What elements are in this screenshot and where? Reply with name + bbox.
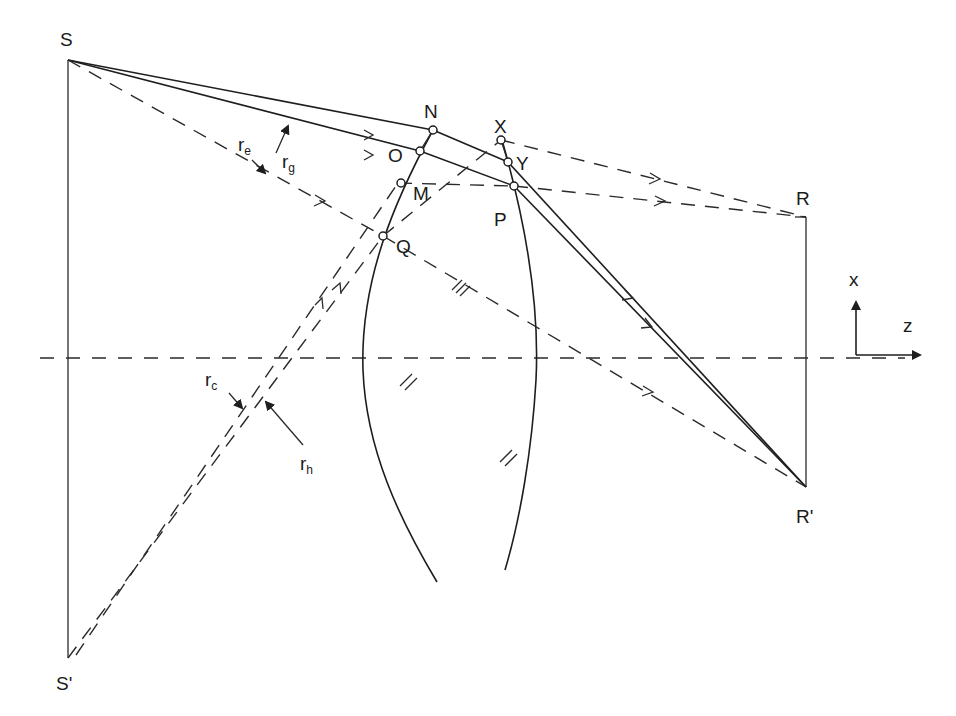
point-M-marker (397, 179, 405, 187)
re-pointer (252, 160, 265, 173)
point-Y-marker (504, 158, 512, 166)
direction-chevron-icon (315, 298, 323, 309)
label-rg: rg (282, 151, 295, 175)
label-X: X (494, 116, 507, 137)
label-M: M (413, 183, 429, 204)
label-rc: rc (205, 369, 217, 393)
lens-ray-diagram: S S' R R' N O M Q X Y P re rg rc rh x z (0, 0, 956, 716)
label-re: re (238, 134, 251, 158)
ray-re (68, 60, 806, 487)
label-S-prime: S' (56, 673, 72, 694)
point-O-marker (416, 147, 424, 155)
label-rh: rh (300, 453, 313, 477)
ray-rc (68, 236, 383, 658)
direction-chevron-icon (642, 386, 653, 396)
label-Y: Y (516, 153, 529, 174)
direction-chevron-icon (364, 150, 373, 160)
dashed-ray-X-R (501, 140, 806, 217)
label-Q: Q (396, 236, 411, 257)
rc-pointer (229, 393, 242, 408)
label-N: N (424, 101, 438, 122)
label-O: O (388, 145, 403, 166)
label-S: S (60, 29, 73, 50)
point-Q-marker (379, 232, 387, 240)
label-z-axis: z (903, 315, 913, 336)
direction-chevron-icon (332, 283, 341, 294)
dashed-ray-Q-R-prime (383, 236, 806, 487)
point-P-marker (510, 182, 518, 190)
rh-pointer (266, 402, 303, 445)
point-X-marker (497, 136, 505, 144)
dashed-ray-S-Q (68, 60, 383, 236)
label-R: R (796, 188, 810, 209)
rg-pointer (276, 126, 288, 153)
ray-rh (76, 183, 398, 655)
label-x-axis: x (849, 269, 859, 290)
label-P: P (494, 209, 507, 230)
label-R-prime: R' (796, 506, 813, 527)
point-N-marker (429, 126, 437, 134)
dashed-ray-P-R (514, 186, 806, 217)
ray-rg (68, 60, 806, 487)
hatch-marks (400, 280, 517, 466)
